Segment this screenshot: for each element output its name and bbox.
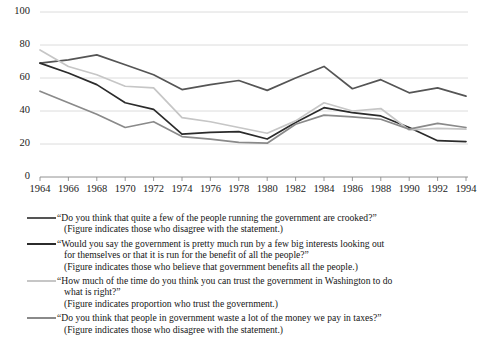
x-axis-tick-label: 1972 bbox=[139, 183, 169, 194]
y-axis-tick-label: 0 bbox=[2, 170, 30, 181]
x-axis-tick-label: 1986 bbox=[337, 183, 367, 194]
x-axis-tick-label: 1974 bbox=[167, 183, 197, 194]
legend-text-line: “How much of the time do you think you c… bbox=[57, 275, 480, 286]
plot-region: 100806040200 196419661968197019721974197… bbox=[0, 0, 480, 196]
x-axis-tick-label: 1976 bbox=[195, 183, 225, 194]
legend-text-line: (Figure indicates those who disagree wit… bbox=[57, 223, 480, 234]
legend-swatch-line-icon bbox=[27, 317, 56, 319]
axis-marks bbox=[40, 177, 468, 181]
legend-text: “How much of the time do you think you c… bbox=[57, 275, 480, 309]
legend-text-line: “Would you say the government is pretty … bbox=[57, 238, 480, 249]
legend-entry: “How much of the time do you think you c… bbox=[0, 275, 480, 309]
y-axis-tick-label: 20 bbox=[2, 137, 30, 148]
x-axis-tick-label: 1978 bbox=[224, 183, 254, 194]
legend-text: “Do you think that quite a few of the pe… bbox=[57, 212, 480, 235]
legend-entry: “Do you think that people in government … bbox=[0, 312, 480, 335]
legend-swatch-cell bbox=[0, 212, 57, 224]
x-axis-tick-label: 1980 bbox=[252, 183, 282, 194]
x-axis-tick-label: 1968 bbox=[82, 183, 112, 194]
legend-swatch-cell bbox=[0, 275, 57, 287]
legend-entry: “Do you think that quite a few of the pe… bbox=[0, 212, 480, 235]
y-axis-tick-label: 100 bbox=[2, 5, 30, 16]
x-axis-tick-label: 1966 bbox=[53, 183, 83, 194]
legend-entry: “Would you say the government is pretty … bbox=[0, 238, 480, 272]
legend-swatch-line-icon bbox=[27, 243, 56, 245]
y-axis-tick-label: 40 bbox=[2, 104, 30, 115]
line-chart-figure: 100806040200 196419661968197019721974197… bbox=[0, 0, 480, 346]
x-axis-tick-label: 1984 bbox=[309, 183, 339, 194]
legend-swatch-line-icon bbox=[27, 280, 56, 282]
y-axis-tick-label: 60 bbox=[2, 71, 30, 82]
gridlines bbox=[40, 12, 468, 177]
legend-text-line: for themselves or that it is run for the… bbox=[57, 249, 480, 260]
legend-swatch-cell bbox=[0, 238, 57, 250]
legend-swatch-cell bbox=[0, 312, 57, 324]
legend-text-line: (Figure indicates those who believe that… bbox=[57, 261, 480, 272]
x-axis-tick-label: 1988 bbox=[366, 183, 396, 194]
legend-swatch-line-icon bbox=[27, 217, 56, 219]
x-axis-tick-label: 1982 bbox=[281, 183, 311, 194]
series-lines bbox=[40, 50, 466, 143]
x-axis-tick-label: 1994 bbox=[451, 183, 480, 194]
plot-svg bbox=[0, 0, 480, 196]
x-axis-tick-label: 1992 bbox=[423, 183, 453, 194]
series-line-trust-government bbox=[40, 50, 466, 133]
x-axis-tick-label: 1990 bbox=[394, 183, 424, 194]
chart-legend: “Do you think that quite a few of the pe… bbox=[0, 212, 480, 338]
x-axis-tick-label: 1970 bbox=[110, 183, 140, 194]
legend-text-line: what is right?” bbox=[57, 286, 480, 297]
legend-text-line: “Do you think that people in government … bbox=[57, 312, 480, 323]
legend-text-line: “Do you think that quite a few of the pe… bbox=[57, 212, 480, 223]
legend-text: “Do you think that people in government … bbox=[57, 312, 480, 335]
legend-text-line: (Figure indicates proportion who trust t… bbox=[57, 298, 480, 309]
legend-text-line: (Figure indicates those who disagree wit… bbox=[57, 324, 480, 335]
legend-text: “Would you say the government is pretty … bbox=[57, 238, 480, 272]
y-axis-tick-label: 80 bbox=[2, 38, 30, 49]
x-axis-tick-label: 1964 bbox=[25, 183, 55, 194]
